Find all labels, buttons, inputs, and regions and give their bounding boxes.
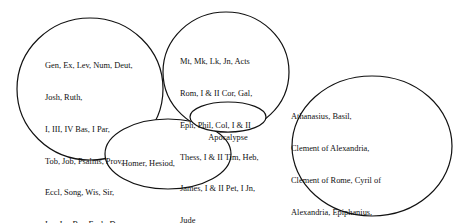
text-line: Eccl, Song, Wis, Sir,: [45, 188, 133, 199]
classical-text: Homer, Hesiod, (Ptolemy), (Aristotle), (…: [122, 138, 184, 223]
text-line: Gen, Ex, Lev, Num, Deut,: [45, 61, 133, 72]
church-fathers-text: Athanasius, Basil, Clement of Alexandria…: [291, 91, 398, 223]
text-line: Tob, Job, Psalms, Prov,: [45, 157, 133, 168]
text-line: Mt, Mk, Lk, Jn, Acts: [180, 57, 259, 68]
text-line: I, III, IV Bas, I Par,: [45, 125, 133, 136]
text-line: Homer, Hesiod,: [122, 159, 184, 170]
text-line: Athanasius, Basil,: [291, 112, 398, 123]
text-line-blank: [122, 191, 184, 202]
apocalypse-text: Apocalypse: [200, 112, 256, 154]
text-line: Rom, I & II Cor, Gal,: [180, 89, 259, 100]
text-line: James, I & II Pet, I Jn,: [180, 184, 259, 195]
text-line: Clement of Alexandria,: [291, 144, 398, 155]
text-line: Jude: [180, 216, 259, 223]
text-line: Josh, Ruth,: [45, 93, 133, 104]
text-line: Alexandria, Epiphanius,: [291, 208, 398, 219]
old-testament-text: Gen, Ex, Lev, Num, Deut, Josh, Ruth, I, …: [45, 40, 133, 223]
text-line: Clement of Rome, Cyril of: [291, 176, 398, 187]
text-line: Apocalypse: [200, 133, 256, 144]
text-line: Isa, Jer, Bar, Ezek, Dan,: [45, 220, 133, 223]
